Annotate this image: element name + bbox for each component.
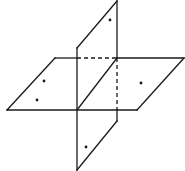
point-vertical-upper bbox=[109, 19, 112, 22]
point-vertical-lower bbox=[85, 146, 88, 149]
point-horizontal-left-lower bbox=[36, 99, 39, 102]
points bbox=[36, 19, 143, 149]
intersection-line bbox=[77, 58, 117, 110]
intersecting-planes-diagram bbox=[0, 0, 185, 171]
vertical-plane-bottom-diagonal bbox=[77, 121, 117, 170]
vertical-plane bbox=[77, 1, 117, 170]
horizontal-plane-right-edge bbox=[137, 58, 184, 110]
point-horizontal-left-upper bbox=[43, 80, 46, 83]
vertical-plane-top-diagonal bbox=[77, 1, 117, 48]
horizontal-plane-left-edge bbox=[7, 58, 55, 110]
point-horizontal-right bbox=[140, 82, 143, 85]
horizontal-plane bbox=[7, 58, 184, 110]
